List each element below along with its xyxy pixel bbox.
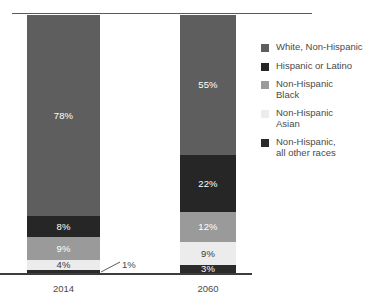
legend-item[interactable]: Non-Hispanic Black [261,79,385,100]
legend-item[interactable]: Non-Hispanic, all other races [261,137,385,158]
x-tick-label-2060: 2060 [180,283,236,294]
legend-swatch-icon [261,139,269,147]
legend-item-label: Non-Hispanic Black [276,79,333,100]
segment-value-label: 9% [57,244,71,254]
segment-value-label: 9% [201,249,215,259]
segment-value-label: 4% [57,260,71,270]
bar-2014: 78%8%9%4% [27,15,100,273]
baseline-axis [0,273,252,275]
callout-leader-line [100,259,124,273]
x-tick-label-2014: 2014 [27,283,100,294]
legend-item[interactable]: White, Non-Hispanic [261,42,385,53]
bar-segment: 3% [180,265,236,273]
bar-segment: 9% [27,237,100,260]
bar-segment: 4% [27,260,100,270]
legend-swatch-icon [261,44,269,52]
legend-swatch-icon [261,81,269,89]
bar-segment [27,270,100,273]
segment-value-label: 22% [198,179,217,189]
bar-segment: 9% [180,242,236,265]
bar-segment: 22% [180,155,236,211]
segment-value-label: 55% [198,80,217,90]
callout-label-1-percent: 1% [122,259,136,270]
segment-value-label: 8% [57,222,71,232]
top-rule [12,13,312,14]
stacked-bar-chart: 78%8%9%4% 55%22%12%9%3% 1% 2014 2060 Whi… [0,0,385,305]
bar-2060: 55%22%12%9%3% [180,15,236,273]
bar-segment: 8% [27,216,100,237]
legend-item-label: Non-Hispanic Asian [276,108,333,129]
bar-segment: 12% [180,212,236,243]
bar-segment: 78% [27,15,100,216]
legend: White, Non-HispanicHispanic or LatinoNon… [261,42,385,166]
legend-item-label: Hispanic or Latino [276,61,352,72]
legend-item[interactable]: Non-Hispanic Asian [261,108,385,129]
legend-item[interactable]: Hispanic or Latino [261,61,385,72]
legend-item-label: Non-Hispanic, all other races [276,137,336,158]
segment-value-label: 3% [201,264,215,274]
legend-swatch-icon [261,63,269,71]
legend-item-label: White, Non-Hispanic [276,42,363,53]
segment-value-label: 12% [198,222,217,232]
bar-segment: 55% [180,15,236,155]
segment-value-label: 78% [54,111,73,121]
legend-swatch-icon [261,110,269,118]
